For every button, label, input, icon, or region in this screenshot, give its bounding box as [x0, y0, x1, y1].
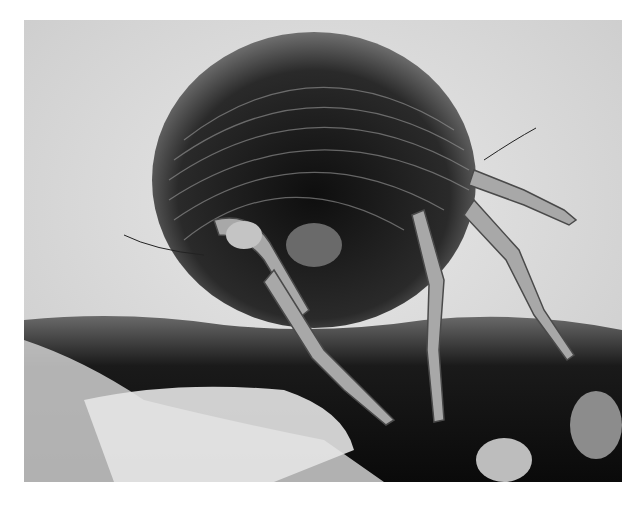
mouthparts — [286, 223, 342, 267]
micrograph-illustration — [24, 20, 622, 482]
mite-body — [152, 32, 476, 328]
particle — [476, 438, 532, 482]
particle — [570, 391, 622, 459]
mite-micrograph: Scanning electron micrograph of a dust m… — [24, 20, 622, 482]
